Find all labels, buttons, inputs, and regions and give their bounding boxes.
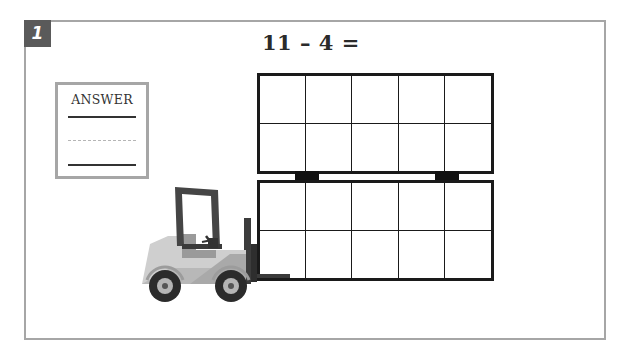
equation-text: 11 – 4 =	[262, 30, 382, 55]
answer-line-dashed	[68, 140, 136, 141]
ten-frame-cell	[445, 76, 491, 124]
ten-frame-cell	[352, 76, 398, 124]
ten-frame-cell	[306, 124, 352, 172]
answer-line-top	[68, 116, 136, 118]
ten-frame-cell	[445, 183, 491, 231]
ten-frame-cell	[399, 76, 445, 124]
problem-number: 1	[32, 23, 44, 43]
ten-frame-cell	[399, 183, 445, 231]
ten-frame-cell	[445, 124, 491, 172]
answer-label: ANSWER	[58, 92, 146, 107]
ten-frame-bottom	[257, 180, 494, 281]
ten-frame-cell	[306, 231, 352, 279]
ten-frame-cell	[399, 124, 445, 172]
ten-frame-cell	[306, 183, 352, 231]
answer-box[interactable]: ANSWER	[55, 82, 149, 179]
ten-frame-cell	[352, 124, 398, 172]
ten-frame-cell	[260, 124, 306, 172]
problem-number-badge: 1	[24, 20, 51, 47]
ten-frame-top	[257, 73, 494, 174]
ten-frame-cell	[352, 231, 398, 279]
forklift-icon	[140, 184, 290, 304]
ten-frame-cell	[352, 183, 398, 231]
ten-frame-cell	[260, 76, 306, 124]
ten-frame-cell	[445, 231, 491, 279]
answer-line-bottom	[68, 164, 136, 166]
ten-frame-cell	[306, 76, 352, 124]
ten-frame-cell	[399, 231, 445, 279]
